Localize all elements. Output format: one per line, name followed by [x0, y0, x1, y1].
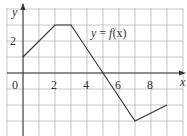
function-graph: y x 2 0 2 4 6 8 y = f(x) — [0, 0, 187, 136]
y-tick-2: 2 — [10, 34, 16, 48]
x-axis-label: x — [179, 75, 186, 89]
annotation-equals: = — [96, 26, 109, 40]
function-annotation: y = f(x) — [90, 26, 126, 40]
y-axis-arrow-icon — [21, 3, 26, 10]
x-tick-2: 2 — [51, 78, 57, 92]
annotation-arg: (x) — [112, 26, 126, 40]
x-tick-6: 6 — [115, 78, 121, 92]
x-tick-8: 8 — [147, 78, 153, 92]
origin-label: 0 — [12, 78, 18, 92]
y-axis-label: y — [11, 5, 18, 19]
x-tick-4: 4 — [83, 78, 89, 92]
